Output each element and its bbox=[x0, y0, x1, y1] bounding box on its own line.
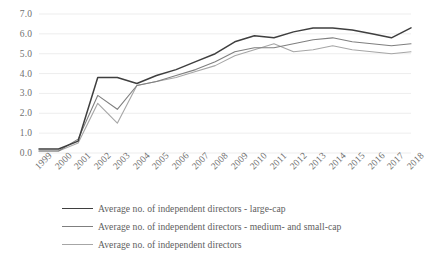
x-axis-tick-label: 2013 bbox=[307, 151, 328, 172]
x-axis-tick-label: 2007 bbox=[190, 151, 211, 172]
x-axis-tick-label: 2006 bbox=[170, 151, 191, 172]
x-axis-tick-label: 2009 bbox=[229, 151, 250, 172]
y-axis-tick-label: 3.0 bbox=[0, 88, 32, 98]
y-axis: 0.01.02.03.04.05.06.07.0 bbox=[0, 0, 36, 167]
series-line bbox=[39, 28, 411, 149]
y-axis-tick-label: 1.0 bbox=[0, 128, 32, 138]
x-axis-tick-label: 2016 bbox=[366, 151, 387, 172]
x-axis-tick-label: 2011 bbox=[268, 151, 289, 172]
series-line bbox=[39, 44, 411, 151]
legend-item[interactable]: Average no. of independent directors - l… bbox=[62, 199, 412, 217]
legend-item[interactable]: Average no. of independent directors bbox=[62, 235, 412, 253]
x-axis-tick-label: 1999 bbox=[33, 151, 54, 172]
y-axis-tick-label: 4.0 bbox=[0, 69, 32, 79]
legend-line-swatch bbox=[62, 244, 93, 245]
y-axis-tick-label: 5.0 bbox=[0, 49, 32, 59]
y-axis-tick-label: 0.0 bbox=[0, 148, 32, 158]
x-axis-tick-label: 2004 bbox=[131, 151, 152, 172]
series-line bbox=[39, 38, 411, 151]
y-axis-tick-label: 7.0 bbox=[0, 9, 32, 19]
x-axis-tick-label: 2018 bbox=[405, 151, 426, 172]
x-axis-tick-label: 2003 bbox=[111, 151, 132, 172]
plot-area bbox=[39, 14, 411, 153]
x-axis-tick-label: 2012 bbox=[288, 151, 309, 172]
x-axis-tick-label: 2000 bbox=[53, 151, 74, 172]
x-axis-tick-label: 2010 bbox=[248, 151, 269, 172]
x-axis-tick-label: 2008 bbox=[209, 151, 230, 172]
x-axis: 1999200020012002200320042005200620072008… bbox=[39, 154, 411, 200]
x-axis-tick-label: 2002 bbox=[92, 151, 113, 172]
x-axis-tick-label: 2015 bbox=[346, 151, 367, 172]
x-axis-tick-label: 2017 bbox=[385, 151, 406, 172]
legend-item-label: Average no. of independent directors bbox=[98, 239, 242, 250]
x-axis-tick-label: 2001 bbox=[72, 151, 93, 172]
chart-legend: Average no. of independent directors - l… bbox=[62, 199, 412, 253]
legend-item-label: Average no. of independent directors - l… bbox=[98, 203, 286, 214]
legend-line-swatch bbox=[62, 208, 93, 209]
y-axis-tick-label: 2.0 bbox=[0, 108, 32, 118]
series-lines bbox=[39, 14, 411, 153]
y-axis-tick-label: 6.0 bbox=[0, 29, 32, 39]
legend-line-swatch bbox=[62, 226, 93, 227]
legend-item[interactable]: Average no. of independent directors - m… bbox=[62, 217, 412, 235]
x-axis-tick-label: 2005 bbox=[150, 151, 171, 172]
legend-item-label: Average no. of independent directors - m… bbox=[98, 221, 341, 232]
x-axis-tick-label: 2014 bbox=[327, 151, 348, 172]
